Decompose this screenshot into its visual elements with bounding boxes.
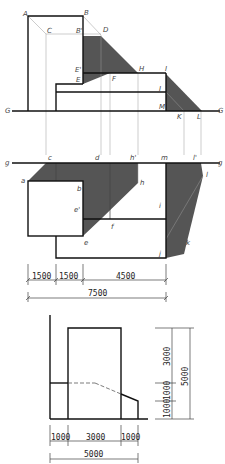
label-l: l	[206, 171, 208, 179]
step-outline	[56, 84, 83, 111]
projector	[83, 16, 101, 35]
side-view: 1000 3000 1000 5000 3000 1000 1000 5000	[50, 315, 194, 463]
dim-v-1000-b: 1000	[163, 399, 172, 418]
plan-dimensions: 1500 1500 4500 7500	[26, 264, 168, 302]
dim-v-5000: 5000	[181, 367, 190, 386]
dim-v-1000-a: 1000	[163, 381, 172, 400]
label-k: k	[186, 239, 191, 247]
label-C: C	[47, 27, 52, 35]
label-B-prime: B'	[76, 27, 83, 35]
label-D: D	[103, 26, 109, 34]
label-F: F	[112, 75, 117, 83]
dim-1500-b: 1500	[59, 272, 78, 281]
label-d: d	[95, 154, 100, 162]
plan-view: g g c d h' m l' a b h l e' f i e j k	[5, 154, 223, 258]
label-i: i	[159, 202, 161, 210]
hidden-line	[95, 383, 121, 394]
label-b: b	[77, 185, 82, 193]
label-L: L	[197, 113, 201, 121]
label-K: K	[177, 113, 183, 121]
dim-7500: 7500	[88, 289, 107, 298]
dim-h-1000-b: 1000	[121, 433, 140, 442]
shadow-upper-wall	[83, 36, 138, 73]
dim-v-3000: 3000	[163, 347, 172, 366]
projector	[28, 16, 46, 34]
dim-1500-a: 1500	[32, 272, 51, 281]
label-g-right: g	[218, 159, 223, 167]
label-G-right: G	[218, 107, 224, 115]
label-I: I	[165, 65, 167, 73]
low-block-side	[121, 394, 138, 419]
shadow-right-block	[166, 74, 202, 111]
label-f: f	[111, 223, 115, 231]
shadow-step	[83, 73, 110, 84]
label-A: A	[22, 10, 28, 18]
label-E: E	[76, 76, 81, 84]
dim-h-3000: 3000	[86, 433, 105, 442]
shadow-plan-right	[166, 163, 203, 258]
label-e: e	[84, 239, 88, 247]
tall-block-side	[68, 328, 121, 419]
elevation-view: A B C B' D E' E F H I J M K L G G	[5, 9, 224, 155]
label-e-prime: e'	[74, 206, 80, 214]
label-l-prime: l'	[193, 154, 197, 162]
label-a: a	[21, 177, 25, 185]
shadow-projection-drawing: A B C B' D E' E F H I J M K L G G g g c …	[0, 0, 225, 464]
label-H: H	[139, 65, 145, 73]
label-g-left: g	[5, 159, 10, 167]
label-h: h	[140, 179, 144, 187]
label-B: B	[84, 9, 89, 17]
label-h-prime: h'	[130, 154, 136, 162]
label-j: j	[158, 250, 161, 258]
dim-4500: 4500	[116, 272, 135, 281]
label-G-left: G	[5, 107, 11, 115]
label-M: M	[159, 103, 165, 111]
label-E-prime: E'	[75, 66, 81, 74]
dim-h-5000: 5000	[84, 450, 103, 459]
label-c: c	[48, 154, 52, 162]
label-m: m	[161, 154, 168, 162]
dim-h-1000-a: 1000	[51, 433, 70, 442]
